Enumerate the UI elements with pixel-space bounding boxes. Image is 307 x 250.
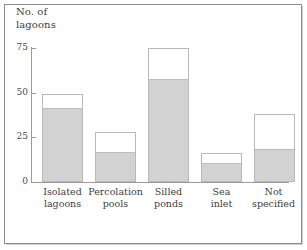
y-tick-50: 50 (31, 93, 36, 94)
bar-segment-lower (202, 163, 241, 181)
bar-sea-inlet[interactable] (201, 153, 242, 182)
y-tick-label-50: 50 (17, 87, 28, 98)
bar-silled-ponds[interactable] (148, 48, 189, 182)
bar-not-specified[interactable] (254, 114, 295, 182)
y-axis-line (31, 47, 32, 183)
bar-segment-lower (149, 79, 188, 181)
x-label-not-specified: Not specified (240, 186, 307, 210)
bar-segment-lower (255, 149, 294, 181)
y-tick-label-0: 0 (22, 176, 28, 187)
y-tick-label-25: 25 (17, 131, 28, 142)
bar-segment-lower (96, 152, 135, 181)
y-tick-25: 25 (31, 137, 36, 138)
y-axis-title: No. of lagoons (16, 6, 56, 31)
y-tick-75: 75 (31, 48, 36, 49)
y-tick-label-75: 75 (17, 42, 28, 53)
bar-segment-lower (43, 108, 82, 181)
y-tick-0: 0 (31, 182, 36, 183)
chart-plot-area: No. of lagoons 75 50 25 0 Isolated lagoo… (0, 0, 307, 250)
x-axis-line (31, 182, 289, 183)
bar-isolated-lagoons[interactable] (42, 94, 83, 182)
bar-percolation-pools[interactable] (95, 132, 136, 182)
